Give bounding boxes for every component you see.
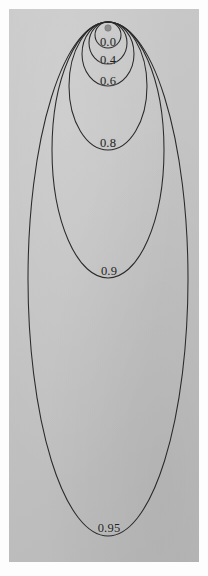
curve-5 <box>28 22 188 536</box>
curve-group <box>28 22 188 536</box>
curve-label-2: 0.6 <box>100 74 116 89</box>
curve-label-3: 0.8 <box>100 136 116 151</box>
curve-label-5: 0.95 <box>98 521 121 536</box>
figure-page: 0.0 0.4 0.6 0.8 0.9 0.95 <box>0 0 208 576</box>
curve-label-0: 0.0 <box>100 35 116 50</box>
curve-label-1: 0.4 <box>100 53 116 68</box>
focus-point-dot <box>105 25 111 31</box>
curve-label-4: 0.9 <box>101 264 117 279</box>
